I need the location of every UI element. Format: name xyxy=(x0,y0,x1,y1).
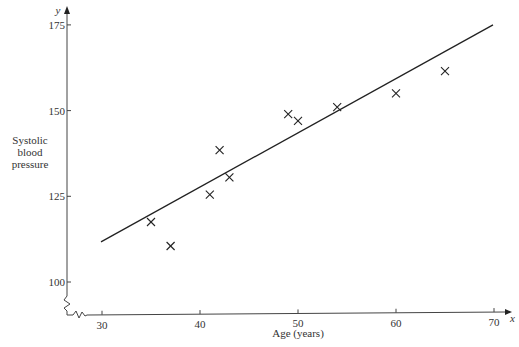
data-point-x-marker-icon xyxy=(441,67,449,75)
x-tick-label: 30 xyxy=(97,319,109,331)
regression-line xyxy=(101,25,493,242)
y-tick-label: 150 xyxy=(49,105,66,117)
x-tick-label: 40 xyxy=(195,318,207,330)
x-axis-title: Age (years) xyxy=(272,327,324,340)
data-point-x-marker-icon xyxy=(284,110,292,118)
data-point-x-marker-icon xyxy=(206,191,214,199)
y-axis-variable: y xyxy=(55,4,61,16)
y-axis-title-line: pressure xyxy=(12,158,49,170)
y-tick-label: 100 xyxy=(49,276,66,288)
y-axis-arrow-icon xyxy=(64,6,70,14)
regression-line xyxy=(101,25,493,242)
y-axis-title-line: blood xyxy=(17,146,43,158)
x-tick-label: 60 xyxy=(391,317,403,329)
y-axis-title-line: Systolic xyxy=(12,134,48,146)
x-axis-variable: x xyxy=(509,312,515,324)
data-point-x-marker-icon xyxy=(225,173,233,181)
data-point-x-marker-icon xyxy=(167,242,175,250)
data-point-x-marker-icon xyxy=(216,146,224,154)
data-point-x-marker-icon xyxy=(333,103,341,111)
x-tick-label: 70 xyxy=(489,316,501,328)
data-point-x-marker-icon xyxy=(392,89,400,97)
y-tick-label: 125 xyxy=(49,190,66,202)
axes xyxy=(64,6,512,318)
y-axis-break-icon xyxy=(64,296,70,315)
y-tick-label: 175 xyxy=(49,19,66,31)
data-point-x-marker-icon xyxy=(294,117,302,125)
ticks: 1001251501753040506070 xyxy=(49,19,501,331)
data-point-x-marker-icon xyxy=(147,218,155,226)
x-axis-line xyxy=(87,312,505,315)
data-points xyxy=(147,67,449,250)
x-axis-break-icon xyxy=(67,311,87,318)
scatter-chart: 1001251501753040506070 yxAge (years)Syst… xyxy=(0,0,519,347)
